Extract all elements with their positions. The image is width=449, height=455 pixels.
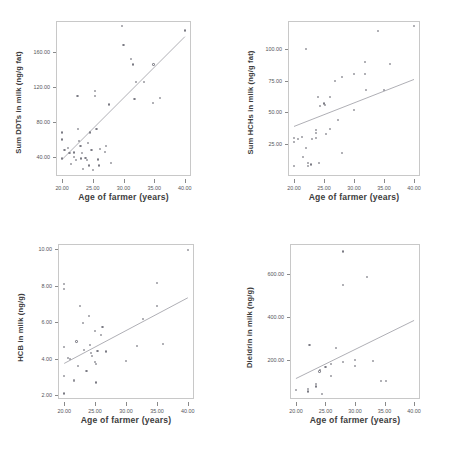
xtick-mark (93, 179, 94, 183)
data-point (80, 157, 82, 159)
xtick-mark (414, 179, 415, 183)
data-point (152, 102, 154, 104)
data-point (295, 389, 297, 391)
ytick-label: 400.00 (248, 314, 284, 320)
data-point (87, 142, 89, 144)
data-point (96, 350, 98, 352)
ytick-mark (55, 322, 58, 323)
ytick-mark (53, 52, 56, 53)
data-point (61, 138, 63, 140)
data-point (184, 29, 186, 31)
xtick-mark (354, 179, 355, 183)
xtick-label: 25.00 (311, 408, 339, 414)
ytick-label: 6.00 (16, 319, 52, 325)
data-point (76, 95, 78, 97)
data-point (108, 103, 110, 105)
xtick-label: 40.00 (174, 408, 202, 414)
data-point (61, 131, 63, 133)
ytick-label: 25.00 (246, 141, 282, 147)
ytick-mark (287, 317, 290, 318)
ytick-label: 200.00 (248, 357, 284, 363)
xtick-label: 30.00 (112, 408, 140, 414)
data-point (301, 136, 303, 138)
panel-sum-ddts: Sum DDTs in milk (ng/g fat) Age of farme… (0, 0, 224, 228)
data-point (324, 366, 326, 368)
panel-dieldrin: Dieldrin in milk (ng/g) Age of farmer (y… (224, 228, 449, 455)
data-point (94, 330, 96, 332)
ytick-label: 50.00 (246, 109, 282, 115)
xtick-mark (126, 402, 127, 406)
xtick-label: 25.00 (81, 408, 109, 414)
panel-sum-ddts-xlabel: Age of farmer (years) (56, 192, 191, 202)
data-point (135, 81, 137, 83)
xtick-mark (384, 179, 385, 183)
ytick-label: 40.00 (14, 154, 50, 160)
panel-hcb: HCB in milk (ng/g) Age of farmer (years)… (0, 228, 224, 455)
xtick-mark (64, 402, 65, 406)
xtick-mark (62, 179, 63, 183)
data-point (342, 250, 344, 252)
data-point (341, 76, 343, 78)
data-point (97, 158, 99, 160)
xtick-mark (355, 402, 356, 406)
ytick-mark (285, 112, 288, 113)
data-point (315, 132, 317, 134)
data-point (89, 131, 91, 133)
data-point (293, 141, 295, 143)
xtick-mark (325, 402, 326, 406)
panel-dieldrin-ylabel: Dieldrin in milk (ng/g) (245, 263, 254, 393)
data-point (366, 276, 368, 278)
ytick-mark (55, 359, 58, 360)
xtick-mark (157, 402, 158, 406)
xtick-mark (124, 179, 125, 183)
ytick-label: 2.00 (16, 392, 52, 398)
ytick-mark (285, 81, 288, 82)
ytick-label: 100.00 (246, 46, 282, 52)
ytick-label: 160.00 (14, 49, 50, 55)
data-point (95, 128, 97, 130)
data-point (83, 349, 85, 351)
ytick-mark (55, 395, 58, 396)
ytick-label: 600.00 (248, 271, 284, 277)
data-point (365, 89, 367, 91)
panel-dieldrin-xlabel: Age of farmer (years) (290, 415, 420, 425)
data-point (85, 370, 87, 372)
data-point (321, 393, 323, 395)
xtick-mark (324, 179, 325, 183)
xtick-label: 35.00 (371, 408, 399, 414)
ytick-label: 8.00 (16, 283, 52, 289)
figure-grid: Sum DDTs in milk (ng/g fat) Age of farme… (0, 0, 449, 455)
data-point (63, 392, 65, 394)
data-point (293, 137, 295, 139)
ytick-mark (53, 122, 56, 123)
xtick-mark (154, 179, 155, 183)
data-point (364, 61, 366, 63)
xtick-label: 20.00 (50, 408, 78, 414)
data-point (293, 165, 295, 167)
data-point (125, 360, 127, 362)
ytick-mark (55, 249, 58, 250)
xtick-label: 30.00 (110, 185, 138, 191)
data-point (94, 95, 96, 97)
data-point (104, 151, 106, 153)
ytick-label: 120.00 (14, 84, 50, 90)
panel-dieldrin-regression-line (290, 244, 420, 399)
data-point (297, 138, 299, 140)
ytick-label: 10.00 (16, 246, 52, 252)
xtick-label: 20.00 (48, 185, 76, 191)
xtick-mark (385, 402, 386, 406)
data-point (372, 360, 374, 362)
xtick-mark (188, 402, 189, 406)
ytick-mark (55, 286, 58, 287)
panel-hcb-regression-line (58, 244, 194, 399)
data-point (101, 326, 103, 328)
data-point (324, 104, 326, 106)
xtick-mark (294, 179, 295, 183)
data-point (92, 169, 94, 171)
data-point (152, 63, 154, 65)
ytick-label: 75.00 (246, 78, 282, 84)
data-point (88, 164, 90, 166)
ytick-label: 4.00 (16, 356, 52, 362)
ytick-mark (53, 87, 56, 88)
xtick-label: 35.00 (143, 408, 171, 414)
